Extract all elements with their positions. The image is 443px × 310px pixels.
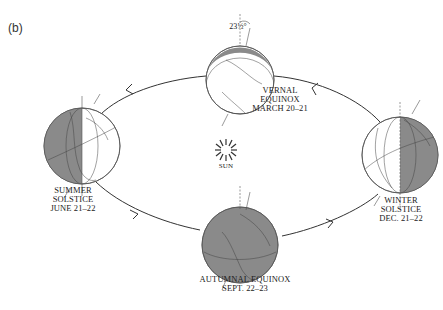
- winter-solstice-label: WINTER SOLSTICE DEC. 21–22: [371, 196, 431, 223]
- sun-label: SUN: [214, 162, 238, 170]
- arrow-right-icon: [130, 210, 138, 219]
- label-line: SEPT. 22–23: [190, 284, 300, 293]
- autumnal-equinox-label: AUTUMNAL EQUINOX SEPT. 22–23: [190, 275, 300, 293]
- label-line: MARCH 20–21: [240, 104, 320, 113]
- orbit-svg: [0, 0, 443, 310]
- vernal-equinox-label: VERNAL EQUINOX MARCH 20–21: [240, 86, 320, 113]
- label-line: DEC. 21–22: [371, 214, 431, 223]
- sun-icon: [215, 139, 237, 161]
- label-line: JUNE 21–22: [48, 204, 98, 213]
- tilt-angle-label: 23½°: [224, 22, 252, 31]
- orbit-diagram: (b) 23½° SUN VERNAL EQUINOX MARCH 20–21 …: [0, 0, 443, 310]
- globe-summer-solstice: [44, 94, 120, 198]
- panel-label: (b): [8, 22, 23, 34]
- globe-winter-solstice: [362, 100, 438, 210]
- summer-solstice-label: SUMMER SOLSTICE JUNE 21–22: [48, 186, 98, 213]
- arrow-left-icon: [126, 84, 133, 94]
